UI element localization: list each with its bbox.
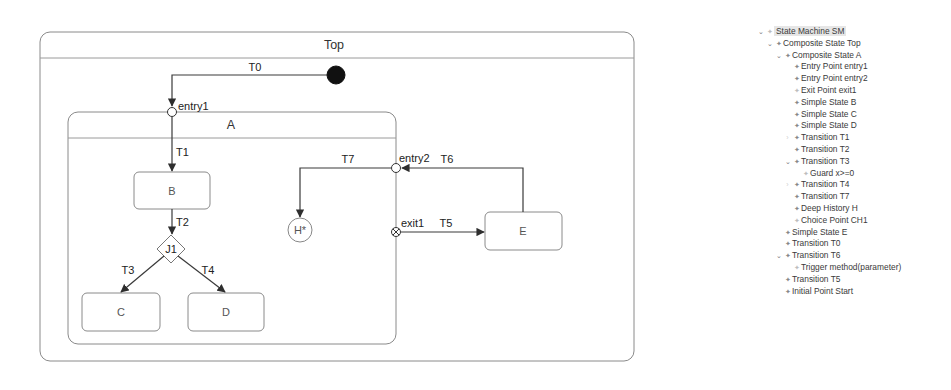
tree-item-label: Transition T1	[801, 132, 849, 142]
diamond-node-icon: ✦	[783, 286, 792, 298]
tree-item-label: Guard x>=0	[810, 168, 854, 178]
tree-item[interactable]: ✦Guard x>=0	[756, 168, 951, 180]
tree-item-label: Simple State D	[801, 120, 857, 130]
tree-item-label: Composite State A	[792, 50, 861, 60]
diamond-node-icon: ✦	[774, 38, 783, 50]
transition-t1-label: T1	[176, 146, 189, 158]
diamond-node-icon: ✦	[792, 203, 801, 215]
tree-item-label: Choice Point CH1	[801, 215, 868, 225]
diamond-node-icon: ✦	[792, 132, 801, 144]
entry2-label: entry2	[399, 152, 430, 164]
tree-item-label: Trigger method(parameter)	[801, 262, 901, 272]
tree-item[interactable]: ✦Transition T5	[756, 274, 951, 286]
transition-t4-label: T4	[202, 264, 215, 276]
chevron-right-icon[interactable]: ›	[783, 179, 792, 191]
tree-item[interactable]: ✦Initial Point Start	[756, 286, 951, 298]
entry1-label: entry1	[178, 100, 209, 112]
chevron-down-icon[interactable]: ⌄	[774, 250, 783, 262]
diamond-node-icon: ✦	[792, 262, 801, 274]
state-c-label: C	[117, 306, 125, 318]
chevron-down-icon[interactable]: ⌄	[774, 50, 783, 62]
tree-item-label: Simple State B	[801, 97, 856, 107]
tree-item[interactable]: ›✦Transition T4	[756, 179, 951, 191]
transition-t3-label: T3	[122, 264, 135, 276]
deep-history-h[interactable]: H*	[288, 218, 312, 242]
tree-item-label: Transition T4	[801, 179, 849, 189]
diamond-node-icon: ✦	[792, 179, 801, 191]
state-top-label: Top	[324, 38, 344, 52]
diamond-node-icon: ✦	[783, 50, 792, 62]
state-machine-diagram: Top A B C D E T0 entry1 T1 T2	[0, 0, 700, 390]
state-b-label: B	[168, 185, 175, 197]
diamond-node-icon: ✦	[792, 61, 801, 73]
diamond-node-icon: ✦	[783, 250, 792, 262]
tree-item-label: Simple State E	[792, 227, 847, 237]
exit1-label: exit1	[401, 217, 424, 229]
chevron-down-icon[interactable]: ⌄	[765, 38, 774, 50]
diamond-node-icon: ✦	[792, 97, 801, 109]
tree-item-label: Entry Point entry2	[801, 73, 868, 83]
tree-item-label: Transition T6	[792, 250, 840, 260]
state-d-label: D	[222, 306, 230, 318]
model-tree: ⌄✦State Machine SM⌄✦Composite State Top⌄…	[756, 26, 951, 297]
diamond-node-icon: ✦	[792, 120, 801, 132]
chevron-down-icon[interactable]: ⌄	[756, 26, 765, 38]
tree-item[interactable]: ⌄✦Composite State A	[756, 50, 951, 62]
tree-item-label: Transition T3	[801, 156, 849, 166]
tree-item[interactable]: ✦Trigger method(parameter)	[756, 262, 951, 274]
history-label: H*	[294, 224, 307, 236]
tree-item[interactable]: ✦Transition T0	[756, 238, 951, 250]
tree-item[interactable]: ›✦Transition T1	[756, 132, 951, 144]
tree-item-label: Deep History H	[801, 203, 858, 213]
tree-item[interactable]: ⌄✦Transition T3	[756, 156, 951, 168]
tree-item-label: Transition T5	[792, 274, 840, 284]
diamond-node-icon: ✦	[792, 73, 801, 85]
tree-item[interactable]: ✦Deep History H	[756, 203, 951, 215]
tree-item[interactable]: ⌄✦Transition T6	[756, 250, 951, 262]
transition-t2-label: T2	[176, 216, 189, 228]
tree-item[interactable]: ✦Exit Point exit1	[756, 85, 951, 97]
chevron-down-icon[interactable]: ⌄	[783, 156, 792, 168]
tree-item[interactable]: ⌄✦State Machine SM	[756, 26, 951, 38]
tree-item[interactable]: ✦Simple State E	[756, 227, 951, 239]
diamond-node-icon: ✦	[792, 85, 801, 97]
tree-item-label: Simple State C	[801, 109, 857, 119]
initial-point-icon[interactable]	[327, 66, 345, 84]
tree-item[interactable]: ✦Simple State C	[756, 109, 951, 121]
tree-item-label: Initial Point Start	[792, 286, 853, 296]
tree-item-label: Transition T0	[792, 238, 840, 248]
diamond-node-icon: ✦	[792, 144, 801, 156]
junction-label: J1	[165, 243, 177, 255]
simple-state-d[interactable]: D	[188, 293, 264, 331]
simple-state-c[interactable]: C	[82, 293, 160, 331]
tree-item-label: Transition T7	[801, 191, 849, 201]
diamond-node-icon: ✦	[783, 227, 792, 239]
simple-state-b[interactable]: B	[134, 172, 210, 209]
tree-item[interactable]: ✦Entry Point entry2	[756, 73, 951, 85]
tree-item-label: State Machine SM	[774, 26, 846, 36]
transition-t7-label: T7	[342, 153, 355, 165]
tree-item[interactable]: ✦Transition T2	[756, 144, 951, 156]
diamond-node-icon: ✦	[801, 168, 810, 180]
simple-state-e[interactable]: E	[485, 212, 562, 250]
state-a-label: A	[227, 118, 236, 132]
tree-item[interactable]: ✦Simple State D	[756, 120, 951, 132]
tree-item-label: Composite State Top	[783, 38, 861, 48]
diamond-node-icon: ✦	[783, 238, 792, 250]
tree-item-label: Transition T2	[801, 144, 849, 154]
diamond-node-icon: ✦	[792, 215, 801, 227]
tree-item[interactable]: ⌄✦Composite State Top	[756, 38, 951, 50]
diamond-node-icon: ✦	[792, 191, 801, 203]
transition-t0-label: T0	[249, 61, 262, 73]
chevron-right-icon[interactable]: ›	[783, 132, 792, 144]
diamond-node-icon: ✦	[792, 156, 801, 168]
tree-item[interactable]: ✦Transition T7	[756, 191, 951, 203]
transition-t5-label: T5	[440, 217, 453, 229]
tree-item[interactable]: ✦Simple State B	[756, 97, 951, 109]
diamond-node-icon: ✦	[783, 274, 792, 286]
tree-item[interactable]: ✦Choice Point CH1	[756, 215, 951, 227]
diamond-node-icon: ✦	[792, 109, 801, 121]
diamond-node-icon: ✦	[765, 26, 774, 38]
tree-item-label: Exit Point exit1	[801, 85, 856, 95]
tree-item[interactable]: ✦Entry Point entry1	[756, 61, 951, 73]
